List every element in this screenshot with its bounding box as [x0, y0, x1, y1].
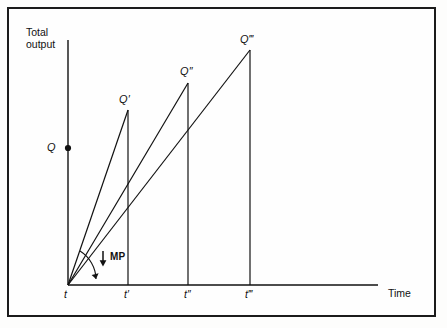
mp-down-arrow-head — [100, 260, 107, 266]
y-axis-title: Total output — [26, 27, 55, 51]
apex-label-q-triple-prime: Q‴ — [240, 33, 253, 45]
q-marker-dot — [65, 145, 71, 151]
x-tick-label-t-triple-prime: t‴ — [245, 289, 252, 301]
ray-to-q-triple-prime — [68, 50, 250, 285]
apex-label-q-double-prime: Q″ — [180, 65, 193, 77]
x-tick-label-t: t — [64, 289, 67, 301]
mp-annotation-label: MP — [110, 251, 125, 262]
x-axis-title: Time — [388, 288, 411, 300]
x-tick-label-t-double-prime: t″ — [184, 289, 191, 301]
y-tick-label-q: Q — [47, 141, 56, 153]
y-axis-title-line2: output — [26, 39, 55, 51]
apex-label-q-prime: Q′ — [119, 93, 130, 105]
figure-screenshot: Total output Time Q Q′ Q″ Q‴ t t′ t″ t‴ … — [0, 0, 447, 328]
x-tick-label-t-prime: t′ — [124, 289, 129, 301]
chart-canvas — [0, 0, 447, 328]
y-axis-title-line1: Total — [26, 27, 55, 39]
